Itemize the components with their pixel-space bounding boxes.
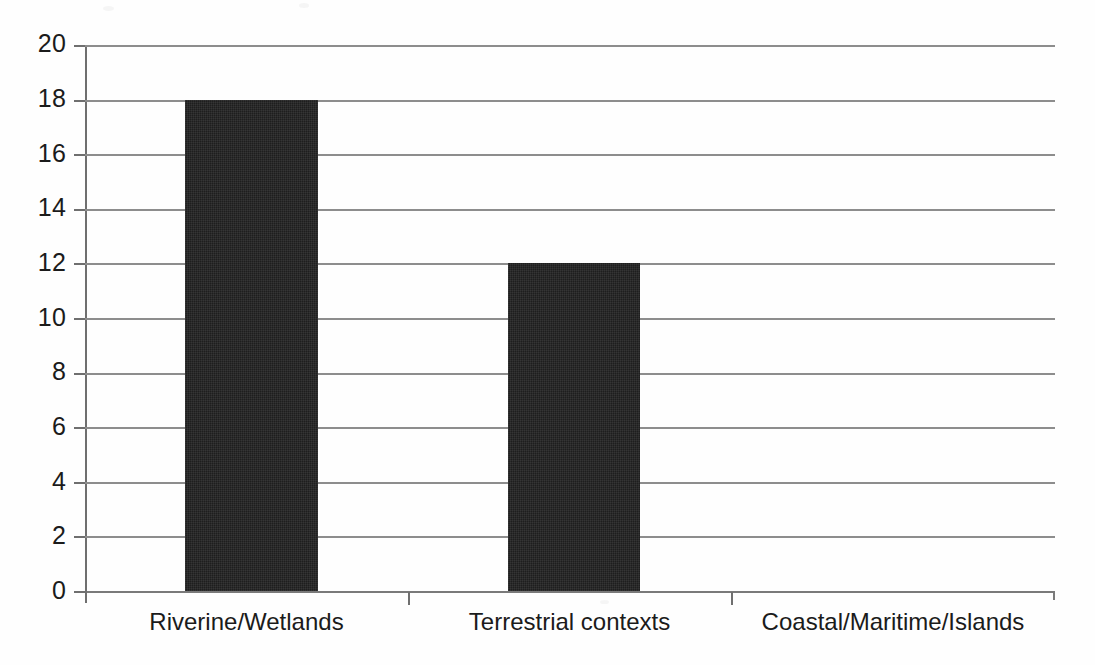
y-axis-tick-label: 16 (6, 141, 66, 166)
bar-terrestrial-contexts[interactable] (508, 263, 640, 591)
y-axis-tick-label: 14 (6, 195, 66, 220)
x-axis-category-divider (731, 592, 733, 605)
bar-riverine-wetlands[interactable] (185, 100, 318, 591)
y-axis-tick-label: 10 (6, 305, 66, 330)
y-axis-tick-label: 8 (6, 359, 66, 384)
x-axis-end-tick (1053, 591, 1055, 600)
y-axis-tick-label: 12 (6, 250, 66, 275)
plot-area (85, 45, 1055, 591)
chart-screenshot: 20 18 16 14 12 10 8 6 4 2 0 (0, 0, 1095, 665)
y-axis-tick-label: 6 (6, 414, 66, 439)
x-axis-label-riverine-wetlands: Riverine/Wetlands (85, 609, 408, 635)
y-axis-tick-label: 18 (6, 86, 66, 111)
y-axis-tick-label: 2 (6, 523, 66, 548)
gridline-20 (85, 45, 1055, 47)
x-axis-label-coastal-maritime-islands: Coastal/Maritime/Islands (731, 609, 1055, 635)
x-axis-baseline (85, 591, 1055, 593)
y-axis-tick-label: 20 (6, 31, 66, 56)
x-axis-category-divider (408, 592, 410, 605)
y-axis-tick-label: 0 (6, 578, 66, 603)
bar-chart: 20 18 16 14 12 10 8 6 4 2 0 (0, 0, 1095, 665)
x-axis-label-terrestrial-contexts: Terrestrial contexts (408, 609, 731, 635)
y-axis-tick-label: 4 (6, 469, 66, 494)
x-axis-origin-tick (85, 581, 87, 603)
